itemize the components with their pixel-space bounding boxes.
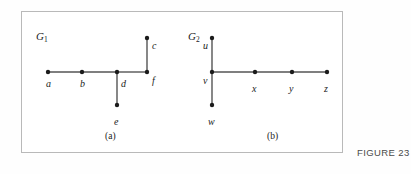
graph-vertex [325, 70, 329, 74]
graph-canvas [0, 0, 411, 174]
vertex-label: w [208, 116, 215, 127]
figure-page: G1 G2 (a) (b) FIGURE 23 abdfceuvwxyz [0, 0, 411, 174]
graph-vertex [210, 103, 214, 107]
vertex-label: u [203, 40, 208, 51]
vertex-label: z [324, 83, 328, 94]
figure-number-label: FIGURE 23 [357, 147, 410, 158]
graph-vertex [210, 36, 214, 40]
graph-vertex [115, 70, 119, 74]
graph-vertex [145, 70, 149, 74]
graph-title-g2: G2 [188, 30, 200, 42]
vertex-label: c [152, 40, 156, 51]
graph-vertex [290, 70, 294, 74]
graph-title-g1: G1 [36, 30, 48, 42]
graph-vertex [253, 70, 257, 74]
graph-vertex [115, 103, 119, 107]
vertex-label: e [114, 116, 118, 127]
vertex-label: y [289, 83, 293, 94]
vertex-label: v [203, 75, 207, 86]
subcaption-b: (b) [267, 131, 278, 141]
vertex-label: a [46, 78, 51, 89]
graph-vertex [210, 70, 214, 74]
vertex-label: x [252, 83, 256, 94]
vertex-label: b [80, 78, 85, 89]
vertex-label: d [121, 78, 126, 89]
graph-vertex [46, 70, 50, 74]
graph-vertex [80, 70, 84, 74]
vertex-label: f [152, 75, 155, 86]
graph-vertex [145, 36, 149, 40]
subcaption-a: (a) [105, 131, 116, 141]
